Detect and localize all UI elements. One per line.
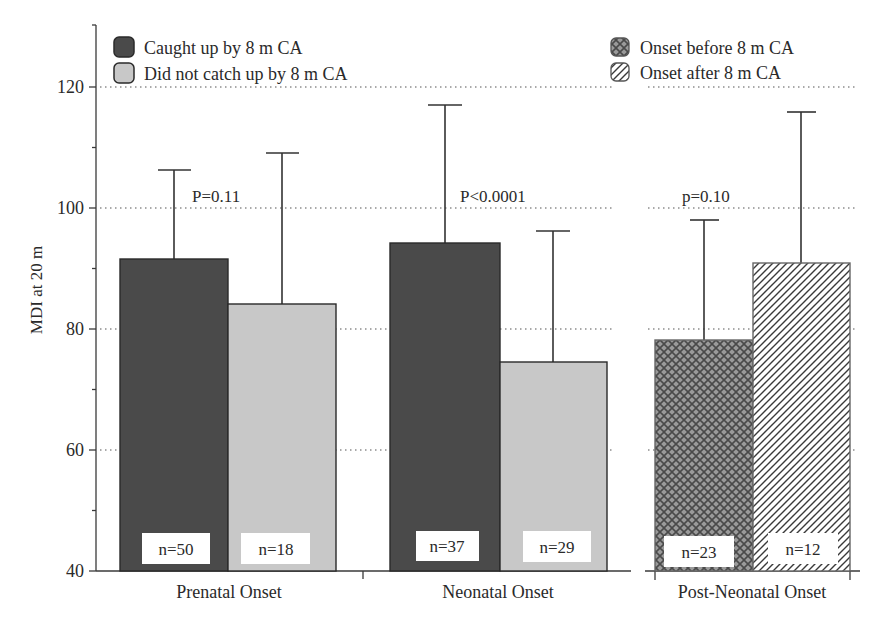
legend-swatch-dark — [114, 37, 134, 57]
y-tick-80: 80 — [66, 319, 84, 339]
p-value-prenatal: P=0.11 — [192, 187, 240, 206]
y-tick-40: 40 — [66, 561, 84, 581]
n-label-prenatal-caught-up: n=50 — [158, 540, 193, 559]
legend-item-not-caught-up: Did not catch up by 8 m CA — [114, 63, 347, 84]
y-tick-labels: 120 100 80 60 40 — [57, 77, 84, 581]
bar-postneonatal-onset-after — [753, 263, 850, 571]
n-label-postneonatal-onset-after: n=12 — [785, 540, 820, 559]
legend-item-onset-after: Onset after 8 m CA — [611, 63, 781, 83]
y-tick-60: 60 — [66, 440, 84, 460]
bars — [120, 243, 850, 571]
legend-label-onset-before: Onset before 8 m CA — [640, 38, 794, 58]
y-tick-120: 120 — [57, 77, 84, 97]
p-value-neonatal: P<0.0001 — [460, 187, 526, 206]
bar-neonatal-caught-up — [390, 243, 500, 571]
category-post-neonatal-onset: Post-Neonatal Onset — [678, 582, 826, 602]
x-axis — [96, 571, 860, 580]
legend-right: Onset before 8 m CA Onset after 8 m CA — [611, 38, 794, 83]
bar-prenatal-caught-up — [120, 259, 228, 571]
category-prenatal-onset: Prenatal Onset — [176, 582, 281, 602]
legend-label-caught-up: Caught up by 8 m CA — [144, 38, 303, 58]
y-axis — [89, 25, 96, 571]
legend-label-onset-after: Onset after 8 m CA — [640, 63, 781, 83]
n-label-prenatal-not-caught-up: n=18 — [258, 540, 293, 559]
bar-prenatal-not-caught-up — [228, 304, 336, 571]
n-label-neonatal-caught-up: n=37 — [429, 537, 465, 556]
legend-swatch-crosshatch — [611, 38, 629, 56]
n-label-neonatal-not-caught-up: n=29 — [539, 538, 574, 557]
bar-chart: 120 100 80 60 40 MDI at 20 m Prenatal On… — [0, 0, 889, 630]
p-values: P=0.11 P<0.0001 p=0.10 — [192, 187, 730, 206]
y-tick-100: 100 — [57, 198, 84, 218]
y-axis-label: MDI at 20 m — [27, 246, 46, 334]
n-label-postneonatal-onset-before: n=23 — [681, 543, 716, 562]
p-value-postneonatal: p=0.10 — [682, 187, 730, 206]
legend-item-caught-up: Caught up by 8 m CA — [114, 37, 303, 58]
legend-swatch-light — [114, 63, 134, 83]
legend-left: Caught up by 8 m CA Did not catch up by … — [114, 37, 347, 84]
legend-label-not-caught-up: Did not catch up by 8 m CA — [144, 64, 347, 84]
legend-item-onset-before: Onset before 8 m CA — [611, 38, 794, 58]
x-category-labels: Prenatal Onset Neonatal Onset Post-Neona… — [176, 582, 826, 602]
legend-swatch-diagonal — [611, 63, 629, 81]
category-neonatal-onset: Neonatal Onset — [442, 582, 553, 602]
